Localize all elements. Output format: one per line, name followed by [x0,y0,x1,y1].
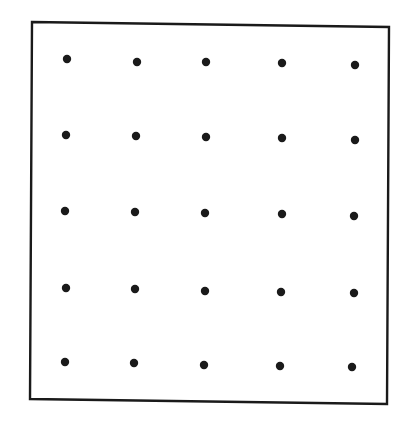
grid-dot-r4-c2 [131,285,139,293]
grid-dot-r5-c2 [130,359,138,367]
grid-dot-r3-c3 [201,209,209,217]
grid-dot-r4-c1 [62,284,70,292]
grid-dot-r2-c5 [351,136,359,144]
grid-dot-r2-c4 [278,134,286,142]
grid-dot-r5-c4 [276,362,284,370]
grid-dot-r1-c3 [202,58,210,66]
grid-dot-r5-c3 [200,361,208,369]
dot-grid-figure [0,0,407,432]
dot-grid [61,55,359,371]
grid-dot-r4-c3 [201,287,209,295]
grid-dot-r1-c4 [278,59,286,67]
grid-dot-r4-c4 [277,288,285,296]
grid-dot-r3-c2 [131,208,139,216]
grid-dot-r1-c2 [133,58,141,66]
square-frame [30,22,389,404]
grid-dot-r5-c1 [61,358,69,366]
grid-dot-r3-c4 [278,210,286,218]
grid-dot-r4-c5 [350,289,358,297]
grid-dot-r2-c3 [202,133,210,141]
grid-dot-r1-c1 [63,55,71,63]
grid-dot-r1-c5 [351,61,359,69]
grid-dot-r3-c1 [61,207,69,215]
grid-dot-r5-c5 [348,363,356,371]
grid-dot-r2-c1 [62,131,70,139]
grid-dot-r3-c5 [350,212,358,220]
grid-dot-r2-c2 [132,132,140,140]
